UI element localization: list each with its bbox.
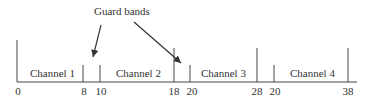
tick-20: 20 — [187, 85, 198, 97]
arrow-guard-band-2 — [134, 22, 181, 63]
tick-10: 10 — [96, 85, 107, 97]
tick-28: 28 — [252, 85, 263, 97]
guard-bands-label: Guard bands — [94, 5, 150, 17]
tick-0: 0 — [15, 85, 21, 97]
channel-4-label: Channel 4 — [290, 67, 335, 79]
channel-3-label: Channel 3 — [201, 67, 246, 79]
tick-8: 8 — [81, 85, 87, 97]
tick-20b: 20 — [270, 85, 281, 97]
arrow-guard-band-1 — [93, 25, 101, 57]
channel-1-label: Channel 1 — [30, 67, 75, 79]
tick-18: 18 — [169, 85, 180, 97]
channel-2-label: Channel 2 — [116, 67, 161, 79]
tick-38: 38 — [343, 85, 354, 97]
